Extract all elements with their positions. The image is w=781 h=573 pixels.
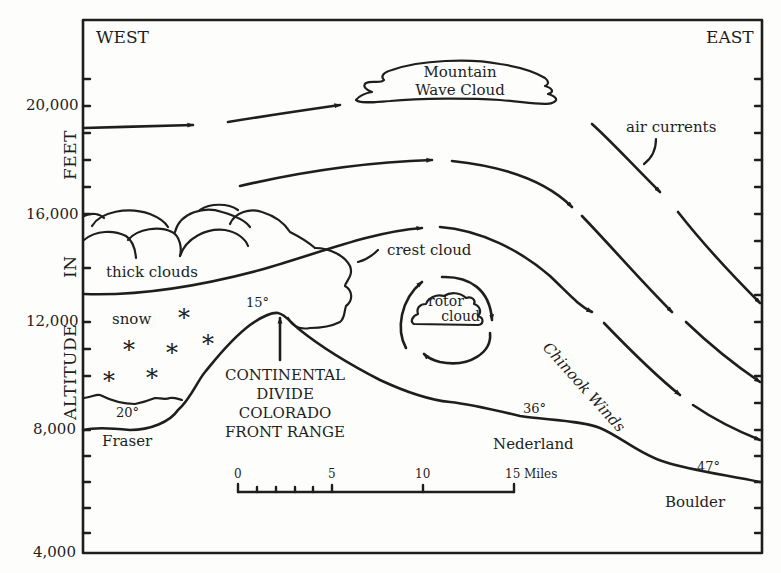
scale-label-5: 5 xyxy=(328,468,336,480)
boulder-label: Boulder xyxy=(665,495,725,510)
rotor-cloud-line1: rotor xyxy=(420,294,480,309)
air-currents-label: air currents xyxy=(626,120,716,135)
air-current-2c xyxy=(582,216,672,312)
east-label: EAST xyxy=(706,29,754,46)
air-current-3c xyxy=(604,323,680,395)
y-tick-20000: 20,000 xyxy=(26,98,79,113)
svg-text:*: * xyxy=(103,367,115,395)
continental-divide-label: CONTINENTAL DIVIDE COLORADO FRONT RANGE xyxy=(212,366,358,442)
rotor-arrow-left xyxy=(424,333,490,363)
boulder-temp-label: 47° xyxy=(697,460,720,473)
air-current-2d xyxy=(686,322,760,382)
mountain-wave-cloud-label: Mountain Wave Cloud xyxy=(410,63,510,99)
fraser-temp-label: 20° xyxy=(116,406,139,419)
air-current-3a xyxy=(84,228,422,294)
fraser-label: Fraser xyxy=(102,434,152,449)
mountain-wave-cloud-line2: Wave Cloud xyxy=(410,81,510,99)
thick-clouds-label: thick clouds xyxy=(106,265,198,280)
svg-text:*: * xyxy=(166,339,178,367)
y-axis-title-feet: FEET xyxy=(62,130,79,180)
y-tick-4000: 4,000 xyxy=(33,545,76,560)
air-current-1b xyxy=(228,105,340,122)
y-tick-8000: 8,000 xyxy=(33,422,76,437)
svg-text:*: * xyxy=(178,304,190,332)
air-current-1d xyxy=(678,212,760,303)
continental-divide-profile xyxy=(84,313,760,482)
y-axis-title-altitude: ALTITUDE xyxy=(62,324,79,420)
air-current-1a xyxy=(84,125,193,128)
divide-line2: DIVIDE xyxy=(212,385,358,404)
y-tick-16000: 16,000 xyxy=(26,207,79,222)
scale-label-15: 15 Miles xyxy=(505,468,557,480)
divide-line3: COLORADO xyxy=(212,404,358,423)
rotor-arrow-up xyxy=(401,282,422,348)
y-axis-title-in: IN xyxy=(62,255,79,278)
scale-bar xyxy=(238,484,514,492)
rotor-cloud-line2: cloud xyxy=(420,309,480,324)
scale-label-10: 10 xyxy=(415,468,430,480)
divide-line4: FRONT RANGE xyxy=(212,423,358,442)
divide-temp-label: 15° xyxy=(246,296,269,309)
svg-text:*: * xyxy=(146,364,158,392)
svg-text:*: * xyxy=(123,336,135,364)
air-current-2a xyxy=(240,160,432,186)
chinook-diagram: * * * * * * xyxy=(0,0,781,573)
crest-cloud-label: crest cloud xyxy=(387,243,471,258)
air-current-3d xyxy=(693,405,760,440)
rotor-cloud-label: rotor cloud xyxy=(420,294,480,324)
air-currents-pointer xyxy=(644,139,656,164)
divide-line1: CONTINENTAL xyxy=(212,366,358,385)
mountain-wave-cloud-line1: Mountain xyxy=(410,63,510,81)
west-label: WEST xyxy=(96,29,149,46)
scale-label-0: 0 xyxy=(234,468,242,480)
air-current-2b xyxy=(452,161,572,207)
svg-text:*: * xyxy=(202,330,214,358)
nederland-temp-label: 36° xyxy=(523,402,546,415)
snow-label: snow xyxy=(112,312,151,327)
nederland-label: Nederland xyxy=(493,437,574,452)
fraser-upper-ridge xyxy=(84,395,182,404)
